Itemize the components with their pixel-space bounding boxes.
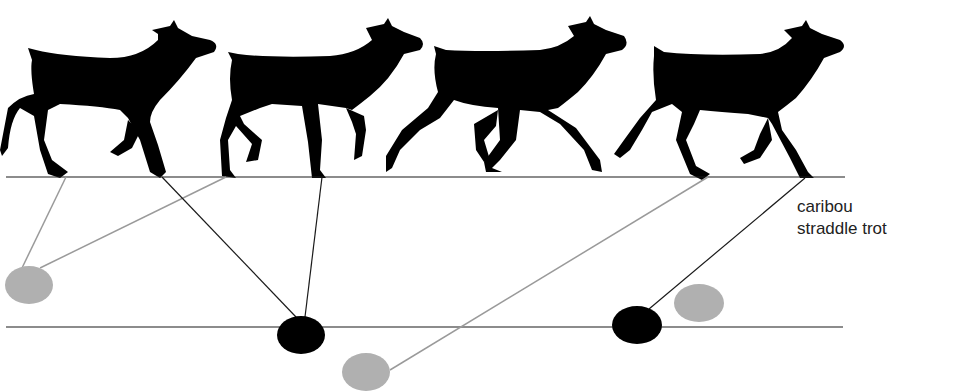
connector-dark [649, 178, 805, 309]
black-footprint-1 [277, 316, 325, 354]
connector-gray [390, 177, 708, 370]
caribou-silhouette-3 [386, 16, 627, 172]
caption-line-2: straddle trot [797, 218, 887, 240]
gray-footprint-3 [674, 284, 724, 322]
gray-footprint-2 [342, 353, 390, 391]
caribou-silhouette-1 [0, 20, 216, 178]
connector-gray [22, 177, 66, 268]
connector-dark [305, 177, 322, 317]
gray-footprint-1 [5, 266, 53, 304]
black-footprint-2 [612, 306, 662, 344]
caption-label: caribou straddle trot [797, 196, 887, 240]
caption-line-1: caribou [797, 196, 887, 218]
caribou-silhouette-4 [614, 20, 844, 180]
connector-gray [40, 177, 226, 268]
connector-dark [162, 177, 296, 317]
